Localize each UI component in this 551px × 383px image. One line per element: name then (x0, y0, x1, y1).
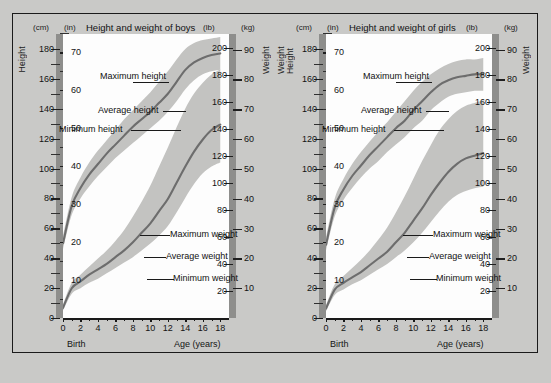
x-tick-label-10-boys: 10 (145, 323, 155, 333)
tick-kg-50-girls: 50 (507, 164, 517, 174)
tick-kg-10-boys: 10 (244, 283, 254, 293)
tick-lb-140-boys: 140 (203, 124, 227, 134)
x-minor-tick-5-boys (107, 318, 108, 321)
tick-kg-80-boys: 80 (244, 74, 254, 84)
x-tick-16-girls (466, 318, 467, 322)
x-tick-0-boys (63, 318, 64, 322)
tick-lb-160-boys: 160 (203, 97, 227, 107)
leader-min-weight-boys (147, 279, 174, 280)
unit-in-girls: (in) (327, 23, 339, 32)
tick-cm-80-girls: 80 (293, 193, 317, 203)
tick-cm-140-boys: 140 (30, 104, 54, 114)
x-tick-18-girls (483, 318, 484, 322)
x-tick-14-boys (185, 318, 186, 322)
x-minor-tick-15-girls (457, 318, 458, 321)
tick-in-60-girls: 60 (334, 85, 344, 95)
tick-kg-30-girls: 30 (507, 224, 517, 234)
title-girls: Height and weight of girls (349, 22, 456, 33)
leader-max-weight-girls (403, 235, 433, 236)
x-axis-boys (63, 318, 229, 320)
tick-cm-60-girls: 60 (293, 223, 317, 233)
x-origin-label-boys: Birth (67, 339, 86, 349)
tick-lb-100-girls: 100 (466, 178, 490, 188)
tick-lb-100-boys: 100 (203, 178, 227, 188)
scalebar-in-girls (319, 34, 326, 318)
tick-cm-80-boys: 80 (30, 193, 54, 203)
x-minor-tick-5-girls (370, 318, 371, 321)
tick-in-70-girls: 70 (334, 47, 344, 57)
tick-cm-20-girls: 20 (293, 283, 317, 293)
x-tick-6-girls (378, 318, 379, 322)
x-tick-label-14-girls: 14 (443, 323, 453, 333)
x-minor-tick-9-girls (405, 318, 406, 321)
tick-in-40-boys: 40 (71, 161, 81, 171)
tick-kg-70-girls: 70 (507, 104, 517, 114)
tick-lb-60-boys: 60 (203, 232, 227, 242)
x-minor-tick-7-girls (387, 318, 388, 321)
x-tick-0-girls (326, 318, 327, 322)
x-tick-12-girls (431, 318, 432, 322)
tick-in-40-girls: 40 (334, 161, 344, 171)
x-tick-18-boys (220, 318, 221, 322)
x-minor-tick-3-girls (352, 318, 353, 321)
outer-caption-weight-girls: Weight (521, 46, 531, 74)
tick-in-10-girls: 10 (334, 275, 344, 285)
x-tick-8-boys (133, 318, 134, 322)
tick-kg-10-girls: 10 (507, 283, 517, 293)
x-tick-8-girls (396, 318, 397, 322)
leader-min-height-girls (394, 130, 444, 131)
tick-kg-50-boys: 50 (244, 164, 254, 174)
x-minor-tick-13-boys (177, 318, 178, 321)
tick-lb-120-girls: 120 (466, 151, 490, 161)
outer-caption-weight-boys: Weight (261, 46, 271, 74)
tick-in-30-boys: 30 (71, 199, 81, 209)
leader-avg-weight-girls (407, 257, 429, 258)
title-boys: Height and weight of boys (86, 22, 195, 33)
tick-lb-160-girls: 160 (466, 97, 490, 107)
x-tick-label-8-boys: 8 (130, 323, 135, 333)
callout-max-height-girls: Maximum height (363, 71, 429, 82)
x-minor-tick-11-girls (422, 318, 423, 321)
tick-kg-80-girls: 80 (507, 74, 517, 84)
tick-kg-40-girls: 40 (507, 194, 517, 204)
x-minor-tick-1-girls (335, 318, 336, 321)
x-tick-label-0-girls: 0 (323, 323, 328, 333)
x-tick-label-2-boys: 2 (78, 323, 83, 333)
x-tick-2-girls (343, 318, 344, 322)
x-origin-label-girls: Birth (330, 339, 349, 349)
x-tick-label-8-girls: 8 (393, 323, 398, 333)
x-tick-2-boys (80, 318, 81, 322)
tick-lb-20-girls: 20 (466, 286, 490, 296)
outer-caption-height-boys: Height (17, 46, 27, 72)
tick-lb-80-girls: 80 (466, 205, 490, 215)
tick-kg-40-boys: 40 (244, 194, 254, 204)
tick-in-10-boys: 10 (71, 275, 81, 285)
tick-kg-20-boys: 20 (244, 253, 254, 263)
x-tick-label-18-boys: 18 (215, 323, 225, 333)
x-tick-label-10-girls: 10 (408, 323, 418, 333)
leader-max-weight-boys (140, 235, 170, 236)
x-tick-10-girls (413, 318, 414, 322)
x-minor-tick-11-boys (159, 318, 160, 321)
x-tick-6-boys (115, 318, 116, 322)
tick-cm-40-boys: 40 (30, 253, 54, 263)
unit-kg-girls: (kg) (504, 23, 518, 32)
x-tick-label-0-boys: 0 (60, 323, 65, 333)
x-tick-label-18-girls: 18 (478, 323, 488, 333)
panel-girls: Weight Height (cm) (in) (lb) (kg) Height… (276, 14, 539, 354)
unit-lb-girls: (lb) (466, 23, 478, 32)
unit-lb-boys: (lb) (203, 23, 215, 32)
x-minor-tick-7-boys (124, 318, 125, 321)
leader-max-height-girls (396, 82, 432, 83)
leader-avg-height-girls (426, 111, 449, 112)
tick-in-50-boys: 50 (71, 123, 81, 133)
x-axis-girls (326, 318, 492, 320)
tick-cm-120-boys: 120 (30, 134, 54, 144)
x-minor-tick-17-boys (212, 318, 213, 321)
x-minor-tick-3-boys (89, 318, 90, 321)
x-tick-14-girls (448, 318, 449, 322)
tick-cm-0-boys: 0 (30, 313, 54, 323)
tick-lb-80-boys: 80 (203, 205, 227, 215)
x-tick-4-girls (361, 318, 362, 322)
callout-avg-height-girls: Average height (361, 105, 421, 116)
